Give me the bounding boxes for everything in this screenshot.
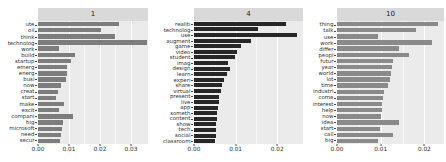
x-axis-tick-label: 0.00 [331, 147, 344, 153]
bar [337, 40, 432, 44]
bar [337, 96, 383, 100]
bar [337, 46, 399, 50]
x-axis: 0.000.010.02 [337, 144, 444, 162]
facet-panel-1: 1uteoilthinktechnologworkbuildstartupeme… [0, 0, 150, 162]
facet-strip-label: 4 [246, 11, 250, 18]
bar [194, 27, 258, 31]
bar [38, 22, 119, 26]
facet-panel-4: 4realititechnologuseaugmentgamevideostud… [150, 0, 305, 162]
y-axis-labels: thingtalkuseworkdifferpeoplfuturyearworl… [305, 21, 337, 144]
bar-series [38, 21, 148, 144]
bar [337, 90, 384, 94]
bar [194, 122, 216, 126]
bar [38, 108, 59, 112]
bar [337, 83, 388, 87]
bar [194, 83, 222, 87]
plot-row: thingtalkuseworkdifferpeoplfuturyearworl… [305, 21, 446, 144]
bar [38, 96, 56, 100]
topic-term-bar-figure: 1uteoilthinktechnologworkbuildstartupeme… [0, 0, 446, 162]
plot-row: realititechnologuseaugmentgamevideostude… [150, 21, 305, 144]
bar [194, 139, 215, 143]
bar [337, 77, 390, 81]
x-axis: 0.000.010.02 [194, 144, 303, 162]
bar [38, 139, 60, 143]
bar-row [38, 138, 148, 144]
bar [337, 22, 438, 26]
bar [337, 139, 378, 143]
bar [38, 28, 101, 32]
bar [194, 44, 241, 48]
bar [337, 114, 381, 118]
facet-strip-label: 1 [91, 11, 95, 18]
bar [194, 39, 251, 43]
y-axis-labels: realititechnologuseaugmentgamevideostude… [150, 21, 194, 144]
x-axis-tick-label: 0.00 [32, 147, 45, 153]
bar [38, 65, 67, 69]
x-axis-tick-label: 0.03 [124, 147, 137, 153]
bar [38, 34, 115, 38]
x-axis-tick-label: 0.01 [229, 147, 242, 153]
bar [38, 114, 73, 118]
bar [38, 77, 66, 81]
bar [194, 134, 216, 138]
facet-panel-10: 10thingtalkuseworkdifferpeoplfuturyearwo… [305, 0, 446, 162]
x-axis-tick-label: 0.00 [188, 147, 201, 153]
bar [194, 89, 221, 93]
bar [337, 127, 380, 131]
panel-plot-area [194, 21, 303, 144]
bar-row [337, 138, 444, 144]
bar [194, 117, 217, 121]
bar [194, 50, 237, 54]
y-axis-tick-label: classroom [150, 138, 194, 144]
facet-strip-4: 4 [194, 8, 303, 21]
y-axis-tick-label: secur [0, 138, 38, 144]
bar [194, 55, 235, 59]
x-axis-tick-label: 0.02 [271, 147, 284, 153]
bar [337, 102, 382, 106]
facet-strip-1: 1 [38, 8, 148, 21]
bar [38, 102, 64, 106]
bar [194, 111, 217, 115]
bar [38, 46, 59, 50]
bar-series [194, 21, 303, 144]
bar [194, 128, 216, 132]
bar [38, 71, 67, 75]
bar [337, 34, 378, 38]
bar [194, 22, 286, 26]
x-axis-tick-label: 0.02 [94, 147, 107, 153]
bar [337, 108, 382, 112]
y-axis-labels: uteoilthinktechnologworkbuildstartupemer… [0, 21, 38, 144]
bar [38, 133, 61, 137]
bar [194, 78, 224, 82]
y-axis-tick-label: big [305, 138, 337, 144]
bar [194, 33, 297, 37]
x-axis: 0.000.010.020.03 [38, 144, 148, 162]
bar-series [337, 21, 444, 144]
bar [38, 53, 75, 57]
bar [194, 95, 219, 99]
bar [194, 72, 227, 76]
bar [337, 28, 416, 32]
bar [194, 106, 218, 110]
bar [337, 59, 393, 63]
bar [38, 40, 147, 44]
x-axis-tick-label: 0.01 [374, 147, 387, 153]
bar [38, 127, 62, 131]
bar [194, 67, 230, 71]
panel-plot-area [337, 21, 444, 144]
bar [38, 83, 61, 87]
bar [337, 71, 391, 75]
bar [38, 90, 58, 94]
x-axis-tick-label: 0.02 [418, 147, 431, 153]
facet-strip-label: 10 [386, 11, 395, 18]
panel-plot-area [38, 21, 148, 144]
x-axis-tick-label: 0.01 [63, 147, 76, 153]
bar [337, 133, 393, 137]
bar [38, 59, 71, 63]
bar [194, 100, 219, 104]
bar [337, 53, 409, 57]
plot-row: uteoilthinktechnologworkbuildstartupemer… [0, 21, 150, 144]
bar [337, 65, 392, 69]
facet-strip-10: 10 [337, 8, 444, 21]
bar [194, 61, 228, 65]
